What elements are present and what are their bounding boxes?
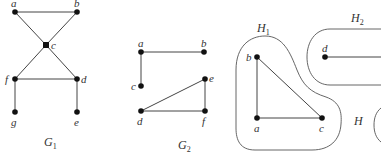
vertex-d (322, 54, 328, 60)
edge-a-c (15, 12, 46, 45)
graph-g1: a b c f d g e G1 (5, 0, 87, 151)
vertex-label-c: c (131, 80, 136, 92)
vertex-label-d: d (137, 115, 143, 127)
vertex-d (74, 76, 80, 82)
vertex-e (74, 109, 80, 115)
vertex-label-b: b (74, 0, 80, 9)
vertex-a (254, 115, 260, 121)
graph-label-g1: G1 (44, 135, 57, 151)
vertex-label-b: b (201, 37, 207, 49)
vertex-label-f: f (202, 115, 207, 127)
vertex-b (74, 9, 80, 15)
vertex-label-e: e (209, 72, 214, 84)
edge-c-f (15, 45, 46, 79)
vertex-label-e: e (74, 116, 79, 128)
vertex-label-b: b (246, 51, 252, 63)
vertex-c (138, 83, 144, 89)
vertex-e (202, 76, 208, 82)
vertex-g (12, 109, 18, 115)
component-boundary-partial (374, 108, 381, 142)
component-label-h2: H2 (350, 11, 364, 27)
vertex-label-d: d (322, 42, 328, 54)
vertex-label-g: g (11, 116, 17, 128)
vertex-b (254, 54, 260, 60)
graph-h: b a c d H1 H2 H (236, 11, 381, 150)
edge-b-c (257, 57, 322, 118)
vertex-label-c: c (319, 122, 324, 134)
vertex-label-d: d (81, 73, 87, 85)
vertex-c (43, 42, 49, 48)
vertex-label-a: a (254, 122, 260, 134)
vertex-c (319, 115, 325, 121)
vertex-f (12, 76, 18, 82)
component-label-h1: H1 (256, 21, 270, 37)
graph-label-g2: G2 (178, 138, 191, 154)
vertex-d (138, 108, 144, 114)
vertex-label-a: a (138, 37, 144, 49)
graph-g2: a b c e d f G2 (131, 37, 214, 154)
vertex-b (201, 49, 207, 55)
vertex-label-a: a (11, 0, 17, 9)
vertex-a (12, 9, 18, 15)
vertex-label-c: c (51, 39, 56, 51)
graph-label-h: H (353, 114, 364, 128)
edge-d-e (141, 79, 205, 111)
vertex-f (202, 108, 208, 114)
graph-figure: a b c f d g e G1 a b c e d f G2 (0, 0, 381, 157)
vertex-a (138, 49, 144, 55)
vertex-label-f: f (5, 73, 10, 85)
